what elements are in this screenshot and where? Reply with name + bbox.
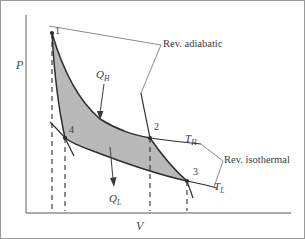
process-label-adiabatic: Rev. adiabatic (163, 39, 222, 50)
diagram-canvas (1, 1, 305, 239)
state-point-label-4: 4 (69, 125, 74, 135)
cycle-shaded-area (52, 33, 187, 181)
qh-subscript: H (104, 74, 109, 83)
temperature-high-label: TH (185, 133, 197, 147)
ql-arrow-head (110, 177, 117, 187)
tl-subscript: L (220, 186, 224, 195)
state-marker-3 (185, 179, 189, 183)
ql-symbol: Q (109, 192, 117, 204)
th-subscript: H (191, 138, 196, 147)
qh-symbol: Q (96, 68, 104, 80)
state-point-label-3: 3 (193, 167, 198, 177)
temperature-low-label: TL (214, 181, 224, 195)
x-axis-label: V (136, 220, 143, 232)
ql-subscript: L (117, 198, 121, 207)
adiabatic-3-extension-lower (187, 181, 193, 198)
state-point-label-2: 2 (154, 122, 159, 132)
state-marker-1 (50, 31, 54, 35)
state-marker-2 (148, 136, 152, 140)
heat-input-label: QH (96, 69, 109, 83)
y-axis-label: P (16, 59, 23, 71)
state-point-label-1: 1 (55, 26, 60, 36)
state-marker-4 (63, 136, 67, 140)
isotherm-low-extension (187, 181, 217, 188)
process-label-isothermal: Rev. isothermal (224, 155, 290, 166)
qh-arrow-shaft (100, 84, 104, 113)
carnot-pv-diagram: P V 1 2 3 4 QH QL TH TL Rev. adiabatic R… (0, 0, 305, 239)
heat-rejected-label: QL (109, 193, 121, 207)
adiabatic-2-extension-upper (141, 93, 150, 138)
